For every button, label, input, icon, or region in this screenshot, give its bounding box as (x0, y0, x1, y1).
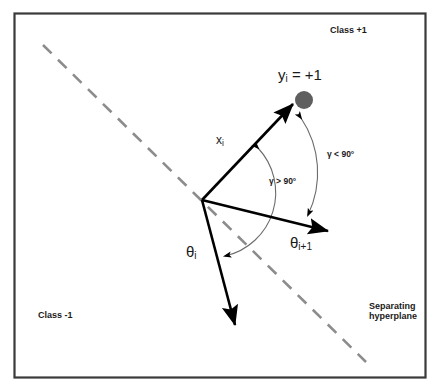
vector-theta-i-plus-1-label: θi+1 (290, 234, 312, 253)
separating-hyperplane-label-line2: hyperplane (369, 311, 417, 321)
class-positive-label: Class +1 (330, 25, 367, 35)
vector-theta-i (202, 200, 235, 325)
arc-gamma-less-than-90 (301, 118, 318, 215)
vector-x-i-label-subscript: i (222, 138, 224, 148)
separating-hyperplane-label-line1: Separating (369, 301, 417, 311)
vector-theta-i-label: θi (186, 243, 197, 262)
data-point-label: yi = +1 (278, 66, 322, 85)
separating-hyperplane-label: Separating hyperplane (369, 301, 417, 322)
figure-border (15, 14, 426, 378)
vector-x-i-label: xi (216, 134, 224, 149)
class-negative-label: Class -1 (38, 310, 73, 320)
data-point-label-main: y (278, 66, 286, 83)
angle-gamma-less-than-90-label: γ < 90° (327, 150, 354, 160)
figure-root: Class +1 Class -1 Separating hyperplane … (0, 0, 440, 392)
data-point-label-tail: = +1 (288, 66, 322, 83)
vector-theta-i-plus-1 (202, 200, 328, 231)
data-point-marker (295, 91, 313, 109)
angle-gamma-greater-than-90-label: γ > 90° (269, 177, 296, 187)
diagram-canvas (0, 0, 440, 392)
vector-theta-i-label-subscript: i (194, 250, 196, 261)
separating-hyperplane-line (43, 45, 366, 362)
arc-gamma-greater-than-90 (225, 148, 276, 256)
vector-theta-i-plus-1-label-subscript: i+1 (298, 241, 312, 252)
